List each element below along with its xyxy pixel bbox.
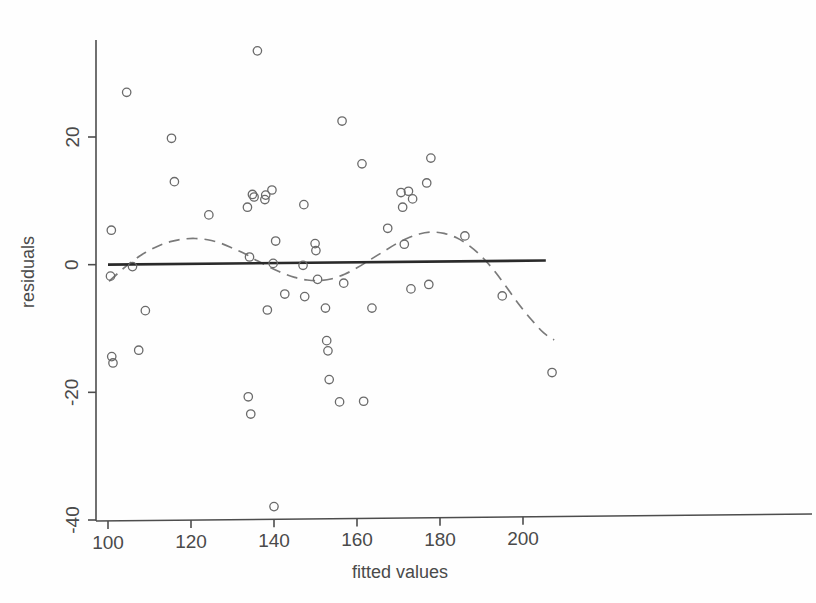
data-point [408, 195, 416, 203]
data-point [321, 304, 329, 312]
data-point [425, 280, 433, 288]
data-point [338, 117, 346, 125]
data-point [300, 200, 308, 208]
data-point [400, 240, 408, 248]
x-tick-label: 140 [258, 530, 290, 551]
data-point [244, 393, 252, 401]
data-point [135, 346, 143, 354]
data-point [325, 375, 333, 383]
lowess-smoother-curve [109, 232, 554, 340]
x-tick-label: 100 [92, 532, 124, 553]
data-point [368, 304, 376, 312]
y-tick-label: -40 [62, 506, 83, 533]
smoother-dashed-path [109, 232, 554, 340]
residual-plot-figure: 200-20-40 100120140160180200 fitted valu… [0, 0, 816, 603]
data-point [335, 398, 343, 406]
data-point [250, 193, 258, 201]
data-point [122, 88, 130, 96]
data-point [323, 336, 331, 344]
data-point [384, 224, 392, 232]
data-point [170, 177, 178, 185]
data-point [141, 306, 149, 314]
data-point [253, 47, 261, 55]
reference-solid-line [108, 261, 546, 265]
data-point [398, 203, 406, 211]
x-tick-label: 200 [507, 528, 539, 549]
x-axis-title: fitted values [352, 562, 448, 582]
x-axis-line [96, 514, 812, 521]
data-point [107, 226, 115, 234]
data-point [263, 306, 271, 314]
data-point [270, 502, 278, 510]
data-point [359, 397, 367, 405]
y-tick-label: 0 [62, 259, 83, 270]
data-point [340, 279, 348, 287]
data-point [205, 211, 213, 219]
data-point [167, 134, 175, 142]
data-point [301, 292, 309, 300]
data-point [461, 232, 469, 240]
data-point [498, 292, 506, 300]
data-point [548, 368, 556, 376]
data-point [245, 253, 253, 261]
y-tick-label: 20 [62, 126, 83, 147]
y-axis-ticks: 200-20-40 [62, 126, 97, 533]
x-tick-label: 120 [175, 531, 207, 552]
data-point [313, 275, 321, 283]
y-axis-title: residuals [18, 236, 38, 308]
x-axis-ticks: 100120140160180200 [92, 517, 539, 553]
data-point [268, 186, 276, 194]
data-point [423, 179, 431, 187]
x-tick-label: 160 [341, 529, 373, 550]
data-point [324, 347, 332, 355]
zero-reference-line [108, 261, 546, 265]
x-tick-label: 180 [424, 529, 456, 550]
data-point [271, 237, 279, 245]
scatter-plot-canvas: 200-20-40 100120140160180200 fitted valu… [0, 0, 816, 603]
data-point [281, 290, 289, 298]
data-point [358, 160, 366, 168]
data-point [427, 154, 435, 162]
data-point [247, 410, 255, 418]
data-point [243, 203, 251, 211]
y-tick-label: -20 [62, 379, 83, 406]
data-point [407, 285, 415, 293]
